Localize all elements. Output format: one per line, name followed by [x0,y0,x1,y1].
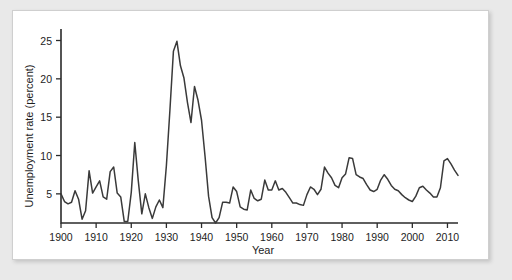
y-tick-label: 5 [46,188,52,200]
x-tick-label: 1920 [120,231,144,243]
chart-panel: 510152025 190019101920193019401950196019… [12,10,489,260]
x-tick-label: 1960 [260,231,284,243]
y-tick-label: 25 [40,35,52,47]
y-tick-label: 15 [40,111,52,123]
data-series-group [61,41,458,223]
y-tick-label: 20 [40,73,52,85]
x-tick-label: 1910 [84,231,108,243]
x-tick-label: 2000 [401,231,425,243]
x-axis-ticks: 1900191019201930194019501960197019801990… [49,223,459,243]
x-tick-label: 1940 [190,231,214,243]
axes [61,29,458,223]
unemployment-line-chart: 510152025 190019101920193019401950196019… [13,11,490,261]
axis-lines [61,29,458,223]
y-axis-label: Unemployment rate (percent) [23,64,35,207]
x-axis-label: Year [252,244,275,256]
y-axis-ticks: 510152025 [40,35,61,200]
x-tick-label: 1990 [366,231,390,243]
x-tick-label: 1950 [225,231,249,243]
x-tick-label: 1930 [155,231,179,243]
x-tick-label: 1980 [330,231,354,243]
x-tick-label: 1900 [49,231,73,243]
unemployment-rate-line [61,41,458,223]
y-tick-label: 10 [40,150,52,162]
x-tick-label: 1970 [295,231,319,243]
x-tick-label: 2010 [436,231,460,243]
